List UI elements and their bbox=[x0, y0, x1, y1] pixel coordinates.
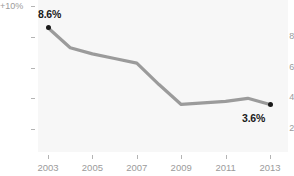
data-point-value-label: 3.6% bbox=[242, 112, 265, 124]
data-point-marker bbox=[268, 102, 273, 107]
series-line bbox=[48, 28, 270, 105]
data-point-marker bbox=[46, 25, 51, 30]
line-chart: +10% 8642 200320052007200920112013 8.6%3… bbox=[0, 0, 294, 176]
data-point-value-label: 8.6% bbox=[38, 8, 61, 20]
series-line-group bbox=[0, 0, 294, 176]
